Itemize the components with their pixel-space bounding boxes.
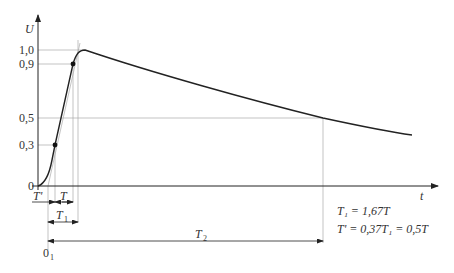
svg-text:1: 1 bbox=[50, 253, 54, 262]
tick-0-3: 0,3 bbox=[19, 138, 34, 152]
point-0-3 bbox=[53, 143, 58, 148]
label-O1: 0 1 bbox=[43, 246, 54, 262]
label-T1: T 1 bbox=[56, 208, 68, 224]
label-T-prime: T' bbox=[33, 189, 43, 203]
formula-T1: T₁ = 1,67T bbox=[337, 204, 391, 218]
x-axis-label: t bbox=[420, 189, 424, 203]
svg-text:T: T bbox=[195, 227, 203, 241]
formula-T-prime: T' = 0,37T₁ = 0,5T bbox=[337, 222, 429, 236]
dimension-arrows bbox=[32, 202, 323, 241]
y-axis-label: U bbox=[25, 22, 35, 36]
tick-0-5: 0,5 bbox=[19, 111, 34, 125]
svg-text:0: 0 bbox=[43, 246, 49, 260]
svg-text:1: 1 bbox=[64, 215, 68, 224]
label-T: T bbox=[60, 189, 68, 203]
point-0-9 bbox=[71, 62, 76, 67]
waveform-diagram: U 1,0 0,9 0,5 0,3 0 t T' T T 1 T 2 0 1 T… bbox=[0, 0, 454, 273]
svg-text:T: T bbox=[56, 208, 64, 222]
tick-1-0: 1,0 bbox=[19, 43, 34, 57]
guide-lines bbox=[38, 40, 323, 250]
tick-0-9: 0,9 bbox=[19, 57, 34, 71]
svg-text:2: 2 bbox=[203, 234, 207, 243]
label-T2: T 2 bbox=[195, 227, 207, 243]
axes bbox=[32, 15, 438, 190]
